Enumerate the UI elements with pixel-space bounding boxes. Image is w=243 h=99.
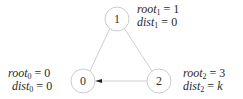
root-val: 3 <box>219 66 225 80</box>
dist-sub: 2 <box>200 85 204 94</box>
node-1-label: 1 <box>114 12 120 26</box>
edge-1-0 <box>90 28 110 71</box>
node-0: 0 <box>71 69 95 93</box>
root-var: root <box>137 2 157 16</box>
dist-val: k <box>217 79 222 93</box>
node-2: 2 <box>147 69 171 93</box>
dist-val: 0 <box>46 79 52 93</box>
dist-var: dist <box>183 79 200 93</box>
root-var: root <box>8 66 28 80</box>
node-0-label: 0 <box>80 74 86 88</box>
dist-var: dist <box>12 79 29 93</box>
node-1: 1 <box>105 7 129 31</box>
dist-sub: 1 <box>154 21 158 30</box>
node-1-dist-annotation: dist1 = 0 <box>137 16 177 32</box>
root-var: root <box>183 66 203 80</box>
root-val: 0 <box>44 66 50 80</box>
arrowhead-icon <box>95 79 102 83</box>
root-val: 1 <box>173 2 179 16</box>
node-2-dist-annotation: dist2 = k <box>183 80 222 96</box>
dist-var: dist <box>137 15 154 29</box>
edge-1-2 <box>124 28 152 71</box>
node-0-dist-annotation: dist0 = 0 <box>12 80 52 96</box>
dist-sub: 0 <box>29 85 33 94</box>
node-2-label: 2 <box>156 74 162 88</box>
dist-val: 0 <box>171 15 177 29</box>
